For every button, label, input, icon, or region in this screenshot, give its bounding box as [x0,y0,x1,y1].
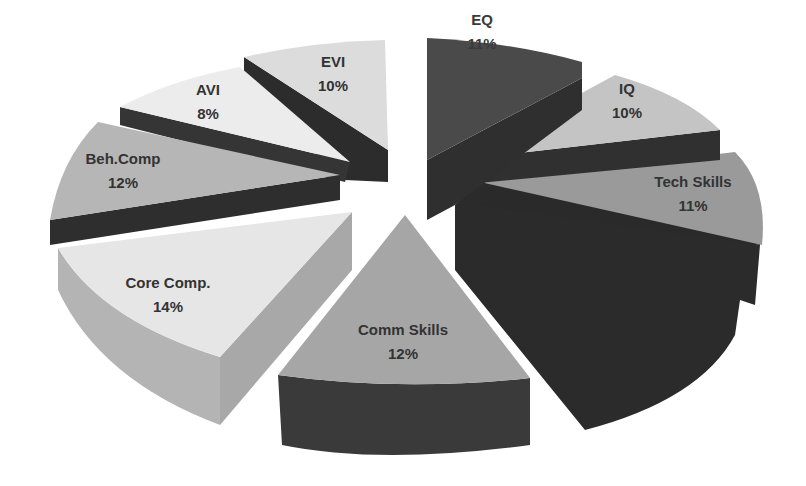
label-eq: EQ 11% [467,8,496,56]
label-iq: IQ 10% [612,77,642,125]
label-tech: Tech Skills 11% [654,170,731,218]
pie-chart [0,0,806,486]
label-tech-name: Tech Skills [654,170,731,194]
label-eq-name: EQ [467,8,496,32]
label-comm-name: Comm Skills [358,318,448,342]
label-avi-pct: 8% [196,102,220,126]
label-beh: Beh.Comp 12% [86,147,161,195]
label-iq-pct: 10% [612,101,642,125]
label-beh-pct: 12% [86,171,161,195]
slice-comm-side [278,375,530,455]
label-comm-pct: 12% [358,342,448,366]
label-beh-name: Beh.Comp [86,147,161,171]
label-eq-pct: 11% [467,32,496,56]
label-core-name: Core Comp. [125,271,210,295]
label-tech-pct: 11% [654,194,731,218]
label-comm: Comm Skills 12% [358,318,448,366]
label-core-pct: 14% [125,295,210,319]
label-avi-name: AVI [196,78,220,102]
label-evi-pct: 10% [318,74,348,98]
label-evi-name: EVI [318,50,348,74]
label-evi: EVI 10% [318,50,348,98]
label-avi: AVI 8% [196,78,220,126]
label-core: Core Comp. 14% [125,271,210,319]
label-iq-name: IQ [612,77,642,101]
